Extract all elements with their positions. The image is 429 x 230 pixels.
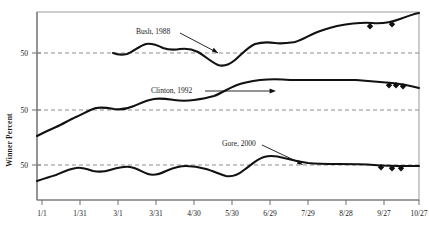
winner-percent-chart: 50 50 50 Winner Percent Bush, 1988 (0, 0, 429, 230)
x-tick-label-0: 1/1 (37, 209, 47, 218)
annotation-clinton-label: Clinton, 1992 (151, 86, 193, 95)
chart-svg: 50 50 50 Winner Percent Bush, 1988 (0, 0, 429, 230)
annotation-gore-label: Gore, 2000 (222, 139, 256, 148)
x-tick-label-10: 10/27 (410, 209, 427, 218)
y-axis-title: Winner Percent (5, 113, 14, 167)
x-tick-label-1: 1/31 (73, 209, 87, 218)
x-tick-label-3: 3/31 (149, 209, 163, 218)
y-tick-label-middle: 50 (21, 106, 29, 115)
annotation-bush-label: Bush, 1988 (136, 27, 170, 36)
y-tick-label-top: 50 (21, 49, 29, 58)
x-tick-label-9: 9/27 (377, 209, 391, 218)
x-tick-label-2: 3/1 (113, 209, 123, 218)
x-axis-ticks (42, 200, 419, 205)
y-tick-label-bottom: 50 (21, 161, 29, 170)
x-tick-label-7: 7/29 (301, 209, 315, 218)
x-tick-label-6: 6/29 (263, 209, 277, 218)
x-tick-label-4: 4/30 (187, 209, 201, 218)
x-tick-label-5: 5/30 (225, 209, 239, 218)
x-axis-tick-labels: 1/1 1/31 3/1 3/31 4/30 5/30 6/29 7/29 8/… (37, 209, 428, 218)
x-tick-label-8: 8/28 (339, 209, 353, 218)
